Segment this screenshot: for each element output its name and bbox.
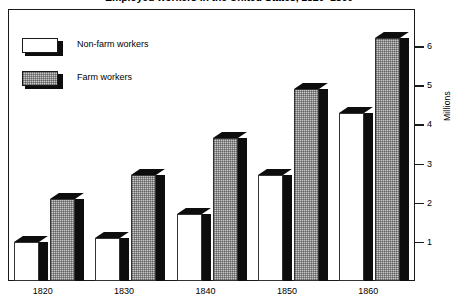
bar-1860-non-farm bbox=[339, 113, 364, 281]
y-tick-label-6: 6 bbox=[427, 42, 432, 51]
x-label-1840: 1840 bbox=[195, 286, 215, 296]
legend-item-non-farm-workers: Non-farm workers bbox=[22, 38, 212, 63]
y-tick-label-5: 5 bbox=[427, 81, 432, 90]
bar-1820-non-farm bbox=[14, 242, 39, 281]
bar-1830-non-farm bbox=[95, 238, 120, 281]
y-tick-6 bbox=[415, 46, 424, 48]
legend-label-farm-workers: Farm workers bbox=[77, 72, 132, 82]
y-tick-4 bbox=[415, 124, 424, 126]
y-tick-label-1: 1 bbox=[427, 237, 432, 246]
x-label-1820: 1820 bbox=[33, 286, 53, 296]
y-tick-label-4: 4 bbox=[427, 120, 432, 129]
bar-1850-non-farm bbox=[258, 175, 283, 281]
x-label-1860: 1860 bbox=[358, 286, 378, 296]
y-tick-5 bbox=[415, 85, 424, 87]
x-label-1850: 1850 bbox=[277, 286, 297, 296]
bar-1860-farm bbox=[375, 38, 400, 281]
x-axis-labels: 18201830184018501860 bbox=[8, 286, 415, 300]
bar-1840-farm bbox=[213, 138, 238, 281]
y-axis: 123456Millions bbox=[415, 9, 458, 281]
bar-1850-farm bbox=[294, 89, 319, 281]
bar-group-1850 bbox=[258, 9, 328, 281]
legend-item-farm-workers: Farm workers bbox=[22, 71, 212, 96]
bar-group-1860 bbox=[339, 9, 409, 281]
legend-label-non-farm-workers: Non-farm workers bbox=[77, 39, 149, 49]
bar-1830-farm bbox=[131, 175, 156, 281]
bar-1820-farm bbox=[50, 199, 75, 281]
bar-chart: Employed workers in the United States, 1… bbox=[0, 0, 458, 302]
y-tick-3 bbox=[415, 164, 424, 166]
y-tick-1 bbox=[415, 242, 424, 244]
chart-legend: Non-farm workers Farm workers bbox=[22, 38, 212, 104]
x-label-1830: 1830 bbox=[114, 286, 134, 296]
y-tick-label-3: 3 bbox=[427, 159, 432, 168]
y-tick-2 bbox=[415, 203, 424, 205]
bar-1840-non-farm bbox=[177, 214, 202, 281]
y-tick-label-2: 2 bbox=[427, 198, 432, 207]
chart-title: Employed workers in the United States, 1… bbox=[0, 0, 458, 3]
gray-bar-swatch-icon bbox=[22, 71, 62, 88]
white-bar-swatch-icon bbox=[22, 38, 62, 55]
y-axis-title: Millions bbox=[442, 91, 452, 121]
